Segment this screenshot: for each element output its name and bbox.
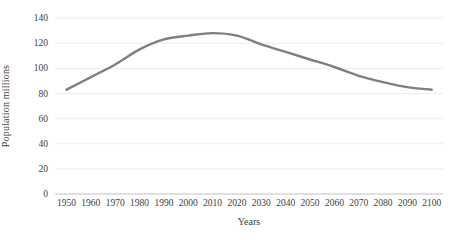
x-tick-label: 1960 [81,198,100,208]
x-tick-label: 2000 [179,198,198,208]
x-tick-label: 2070 [349,198,368,208]
y-tick-label: 100 [34,63,49,73]
y-tick-label: 0 [43,189,48,199]
x-tick-label: 1970 [106,198,125,208]
x-tick-label: 1950 [57,198,76,208]
x-tick-label: 2090 [398,198,417,208]
y-tick-label: 60 [39,114,49,124]
y-tick-label: 40 [39,139,49,149]
plot-svg: 0204060801001201401950196019701980199020… [0,0,455,240]
x-tick-label: 2050 [301,198,320,208]
population-line-chart: 0204060801001201401950196019701980199020… [0,0,455,240]
y-tick-label: 120 [34,38,49,48]
x-axis-title: Years [55,216,443,227]
y-axis-title: Population millions [0,18,14,194]
x-tick-label: 2020 [227,198,246,208]
x-tick-label: 2080 [374,198,393,208]
x-tick-label: 1980 [130,198,149,208]
x-tick-label: 2060 [325,198,344,208]
y-tick-label: 80 [39,89,49,99]
y-tick-label: 140 [34,13,49,23]
population-series-line [67,33,432,90]
y-tick-label: 20 [39,164,49,174]
x-tick-label: 2010 [203,198,222,208]
x-tick-label: 2100 [422,198,441,208]
x-tick-label: 2030 [252,198,271,208]
x-tick-label: 2040 [276,198,295,208]
x-tick-label: 1990 [154,198,173,208]
